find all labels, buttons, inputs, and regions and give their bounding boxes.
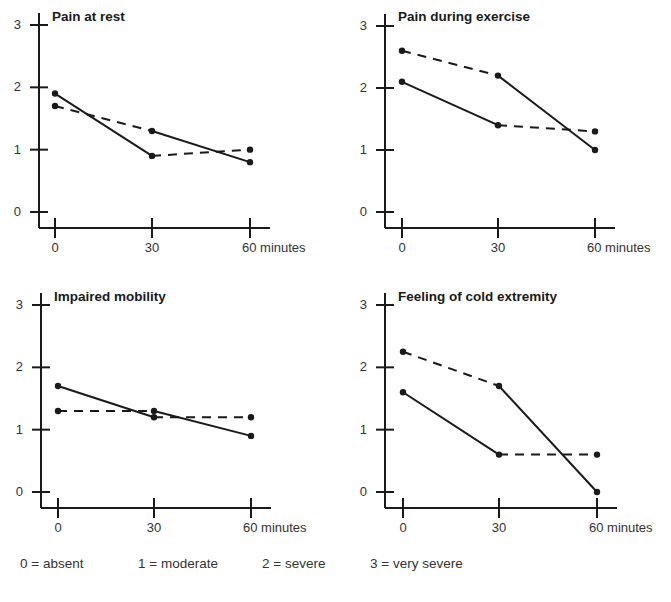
legend-item-absent: 0 = absent	[20, 556, 138, 571]
chart-title: Feeling of cold extremity	[398, 289, 557, 304]
severity-legend: 0 = absent 1 = moderate 2 = severe 3 = v…	[20, 556, 463, 571]
chart-plot	[0, 0, 671, 602]
chart-panel-cold-extremity: Feeling of cold extremity012303060 minut…	[0, 0, 335, 280]
y-tick-label: 2	[353, 360, 367, 373]
series-segment	[403, 352, 499, 386]
data-point	[400, 389, 406, 395]
data-point	[594, 451, 600, 457]
data-point	[594, 489, 600, 495]
x-tick-label: 0	[399, 521, 406, 534]
y-tick-label: 1	[353, 423, 367, 436]
data-point	[496, 451, 502, 457]
data-point	[400, 349, 406, 355]
series-segment	[499, 386, 597, 492]
legend-item-severe: 2 = severe	[262, 556, 370, 571]
y-tick-label: 3	[353, 298, 367, 311]
x-tick-label: 30	[492, 521, 506, 534]
data-point	[496, 383, 502, 389]
legend-item-moderate: 1 = moderate	[138, 556, 262, 571]
legend-item-very-severe: 3 = very severe	[370, 556, 463, 571]
x-tick-label: 60 minutes	[589, 521, 653, 534]
series-segment	[403, 392, 499, 454]
y-tick-label: 0	[353, 485, 367, 498]
